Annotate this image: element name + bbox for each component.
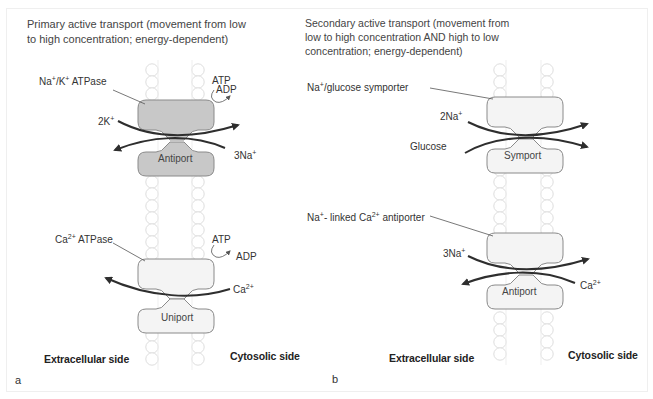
adp-label: ADP [236,251,257,263]
cytosolic-side-label: Cytosolic side [568,349,638,361]
superscript-charge: + [110,115,114,122]
label-part: /K [56,76,65,87]
superscript-charge: 2+ [246,283,254,290]
na-k-atpase-label: Na+/K+ ATPase [39,76,107,88]
label-part: ATPase [76,234,113,245]
extracellular-side-label: Extracellular side [44,353,129,365]
label-part: - linked Ca [324,212,372,223]
na-ion-label: 3Na+ [443,248,465,260]
label-part: antiporter [380,212,425,223]
extracellular-side-label: Extracellular side [389,352,474,364]
superscript-charge: + [458,110,462,117]
ca-ion-label: Ca2+ [580,280,601,292]
label-part: /glucose symporter [324,82,408,93]
symport-type-label: Symport [504,150,541,162]
ca-ion-label: Ca2+ [233,284,254,296]
label-part: 3Na [234,150,252,161]
na-glucose-symporter-label: Na+/glucose symporter [307,82,408,94]
k-ion-label: 2K+ [98,116,114,128]
label-part: Na [307,82,320,93]
superscript-charge: + [461,247,465,254]
glucose-label: Glucose [410,141,447,153]
ca-atpase-label: NaCa2+ ATPase [55,234,113,246]
panel-a-title: Primary active transport (movement from … [27,17,246,47]
pointer-line [113,90,145,104]
label-part: ATPase [69,76,106,87]
label-part: Ca [580,280,593,291]
pointer-line [430,216,493,236]
panel-b-title: Secondary active transport (movement fro… [305,16,509,58]
title-line: concentration; energy-dependent) [305,44,509,58]
label-part: Ca [233,284,246,295]
cytosolic-side-label: Cytosolic side [230,350,300,362]
superscript-charge: 2+ [593,279,601,286]
label-part: 2K [98,116,110,127]
label-part: 2Na [440,111,458,122]
uniport-type-label: Uniport [161,312,193,324]
panel-letter-a: a [15,374,21,386]
label-part: Na [307,212,320,223]
title-line: to high concentration; energy-dependent) [27,32,246,47]
pointer-line [113,243,145,261]
superscript-charge: 2+ [372,211,380,218]
label-part: Na [39,76,52,87]
antiport-type-label: Antiport [158,153,192,165]
title-line: Secondary active transport (movement fro… [305,16,509,30]
pointer-line [430,88,493,99]
adp-label: ADP [216,84,237,96]
antiport-type-label: Antiport [502,286,536,298]
transport-diagram [0,0,653,399]
label-part: Ca [55,234,68,245]
title-line: Primary active transport (movement from … [27,17,246,32]
label-part: 3Na [443,248,461,259]
panel-letter-b: b [332,373,338,385]
na-ion-label: 3Na+ [234,150,256,162]
superscript-charge: + [252,149,256,156]
na-ion-label: 2Na+ [440,111,462,123]
atp-adp-curl-icon [211,245,230,257]
title-line: low to high concentration AND high to lo… [305,30,509,44]
superscript-charge: 2+ [68,233,76,240]
atp-label: ATP [212,234,231,246]
na-ca-antiporter-label: Na+- linked Ca2+ antiporter [307,212,425,224]
